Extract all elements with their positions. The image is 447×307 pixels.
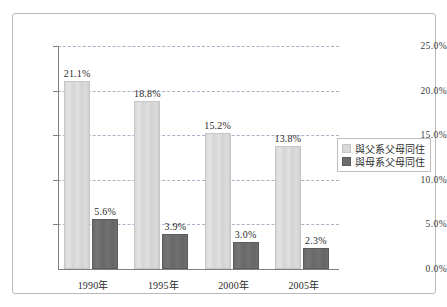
bar-value-label: 13.8% [268, 133, 308, 144]
chart-legend: 與父系父母同住 與母系父母同住 [337, 138, 431, 172]
bar [134, 101, 160, 269]
bar [162, 234, 188, 269]
bar [275, 146, 301, 269]
bar-value-label: 3.9% [155, 221, 195, 232]
chart-figure: 25.0% 20.0% 15.0% 10.0% 5.0% 0.0% 21.1%5… [0, 0, 447, 307]
x-axis-label: 1990年 [58, 277, 128, 292]
bar [205, 133, 231, 269]
bar [64, 81, 90, 269]
y-tick-label: 25.0% [395, 41, 447, 51]
bar-value-label: 5.6% [85, 206, 125, 217]
bar-value-label: 18.8% [127, 88, 167, 99]
bar [92, 219, 118, 269]
legend-label: 與母系父母同住 [355, 154, 425, 169]
bar [233, 242, 259, 269]
legend-swatch-icon-light [342, 144, 351, 153]
legend-swatch-icon-dark [342, 157, 351, 166]
x-axis-label: 1995年 [128, 277, 198, 292]
y-tick-label: 0.0% [395, 264, 447, 274]
bar-value-label: 21.1% [57, 68, 97, 79]
x-axis-label: 2000年 [199, 277, 269, 292]
y-tick-label: 10.0% [395, 175, 447, 185]
y-tick-label: 5.0% [395, 219, 447, 229]
x-axis-line [58, 269, 339, 270]
bar [303, 248, 329, 269]
bar-value-label: 2.3% [296, 235, 336, 246]
bar-value-label: 3.0% [226, 229, 266, 240]
y-tick-label: 20.0% [395, 86, 447, 96]
bar-value-label: 15.2% [198, 120, 238, 131]
y-axis-line [58, 46, 59, 269]
x-axis-label: 2005年 [269, 277, 339, 292]
plot-area: 21.1%5.6%18.8%3.9%15.2%3.0%13.8%2.3% [58, 46, 339, 269]
gridline [58, 91, 339, 92]
gridline [58, 46, 339, 47]
legend-item-mother-side: 與母系父母同住 [342, 155, 425, 168]
